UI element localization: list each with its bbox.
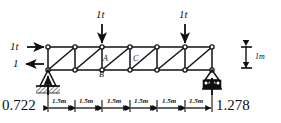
vertical-load-label-1: 1t xyxy=(96,9,105,20)
right-reaction-label: 1.278 xyxy=(216,98,250,113)
panel-dimension-label-3: 1.5m xyxy=(107,98,121,105)
panel-dimension-label-6: 1.5m xyxy=(189,98,203,105)
left-reaction-label: 0.722 xyxy=(2,98,36,113)
height-dimension-label: 1m xyxy=(255,53,265,61)
height-dimension-line xyxy=(241,46,252,68)
panel-dimension-label-1: 1.5m xyxy=(52,98,66,105)
node-label-c: C xyxy=(133,55,138,63)
truss-figure: 1t 1t 1t 1 A B C 1m 0.722 1.278 1.5m 1.5… xyxy=(0,0,281,123)
panel-dimension-label-2: 1.5m xyxy=(79,98,93,105)
vertical-load-label-2: 1t xyxy=(179,9,188,20)
node-label-a: A xyxy=(103,55,108,63)
span-dimension-extensions xyxy=(48,90,212,112)
horizontal-load-label-right: 1t xyxy=(10,41,19,52)
panel-dimension-label-5: 1.5m xyxy=(162,98,176,105)
vertical-web-members xyxy=(48,47,212,70)
node-label-b: B xyxy=(99,71,104,79)
horizontal-load-label-left: 1 xyxy=(13,58,19,69)
panel-dimension-label-4: 1.5m xyxy=(134,98,148,105)
